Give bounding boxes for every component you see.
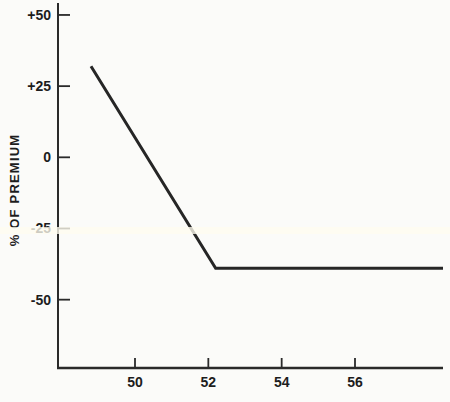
y-axis-title: % OF PREMIUM <box>7 110 23 270</box>
x-tick-label: 56 <box>347 374 363 390</box>
y-tick-label: -50 <box>31 292 51 308</box>
x-tick-label: 50 <box>127 374 143 390</box>
y-tick-label: +50 <box>27 7 51 23</box>
y-tick-label: -25 <box>31 220 51 236</box>
plot-area: +50+250-25-5050525456 <box>0 0 450 402</box>
x-tick-label: 52 <box>201 374 217 390</box>
data-line-premium-percentage <box>91 66 443 268</box>
y-tick-label: 0 <box>43 149 51 165</box>
x-tick-label: 54 <box>274 374 290 390</box>
y-tick-label: +25 <box>27 78 51 94</box>
chart-container: +50+250-25-5050525456 % OF PREMIUM <box>0 0 450 402</box>
